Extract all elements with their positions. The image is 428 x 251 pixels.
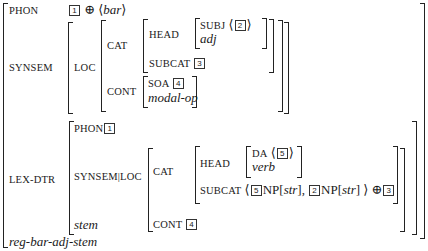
- phon-value: 1 ⊕ ⟨bar⟩: [68, 3, 126, 17]
- tag-box: 2: [235, 20, 246, 31]
- lex-head-bracket-right: [297, 146, 302, 178]
- subj-label: SUBJ: [200, 20, 225, 31]
- synsem-bracket-left: [68, 22, 73, 114]
- case-value: str: [284, 182, 298, 197]
- loc-bracket-left: [101, 20, 106, 112]
- lex-dtr-label: LEX-DTR: [9, 173, 55, 187]
- subcat-label-text: SUBCAT: [149, 58, 190, 69]
- loc-label: LOC: [74, 61, 96, 75]
- tag-box: 3: [194, 58, 205, 69]
- np-close: ]: [356, 182, 360, 197]
- lex-head-label: HEAD: [200, 157, 230, 171]
- case-value: str: [342, 182, 356, 197]
- cat-bracket-left: [143, 19, 148, 73]
- head-bracket-right: [262, 18, 267, 49]
- lex-phon-label: PHON: [74, 123, 103, 134]
- lex-subcat-label: SUBCAT: [200, 185, 241, 196]
- tag-box: 5: [277, 148, 288, 159]
- phon-word: bar: [103, 2, 121, 17]
- list-open: ⟨: [271, 145, 276, 160]
- lex-dtr-bracket-right: [412, 121, 417, 235]
- concat-operator: ⊕: [84, 2, 95, 17]
- lex-dtr-type: stem: [74, 218, 98, 232]
- tag-box: 1: [69, 5, 80, 16]
- outer-bracket-right: [420, 3, 425, 239]
- outer-bracket-left: [3, 3, 8, 248]
- list-close: ⟩: [363, 182, 368, 197]
- loc-bracket-right: [278, 20, 283, 112]
- lex-cont-feature: CONT 4: [153, 218, 198, 232]
- head-label: HEAD: [149, 28, 179, 42]
- lex-head-type: verb: [252, 160, 275, 174]
- list-close: ⟩: [121, 2, 126, 17]
- lex-head-bracket-left: [246, 146, 251, 178]
- lex-phon-feature: PHON1: [74, 122, 116, 136]
- np-category: NP[: [321, 182, 342, 197]
- list-close: ⟩: [247, 17, 252, 32]
- np-close: ],: [297, 182, 305, 197]
- list-open: ⟨: [245, 182, 250, 197]
- synsem-loc-label: SYNSEM|LOC: [74, 170, 142, 184]
- soa-label: SOA: [148, 78, 169, 89]
- lex-cont-label: CONT: [153, 219, 182, 230]
- tag-box: 4: [186, 219, 197, 230]
- da-label: DA: [252, 148, 268, 159]
- concat-operator: ⊕: [371, 182, 382, 197]
- lex-cat-label: CAT: [153, 165, 173, 179]
- cat-label: CAT: [107, 39, 127, 53]
- synsem-bracket-right: [284, 22, 289, 114]
- soa-feature: SOA 4: [148, 77, 185, 91]
- head-type: adj: [200, 32, 217, 46]
- subcat-label: SUBCAT 3: [149, 57, 206, 71]
- avm-type: reg-bar-adj-stem: [9, 235, 97, 249]
- np-category: NP[: [263, 182, 284, 197]
- tag-box: 2: [309, 185, 320, 196]
- tag-box: 4: [173, 78, 184, 89]
- synsem-label: SYNSEM: [9, 61, 53, 75]
- lex-loc-bracket-right: [400, 148, 405, 232]
- list-close: ⟩: [289, 145, 294, 160]
- lex-subcat-feature: SUBCAT ⟨5NP[str], 2NP[str] ⟩ ⊕3: [200, 183, 395, 198]
- list-open: ⟨: [228, 17, 233, 32]
- tag-box: 1: [104, 123, 115, 134]
- cont-label: CONT: [107, 85, 136, 99]
- tag-box: 3: [383, 185, 394, 196]
- phon-label: PHON: [9, 4, 38, 18]
- cat-bracket-right: [269, 19, 274, 73]
- cont-type: modal-op: [148, 91, 198, 105]
- tag-box: 5: [251, 185, 262, 196]
